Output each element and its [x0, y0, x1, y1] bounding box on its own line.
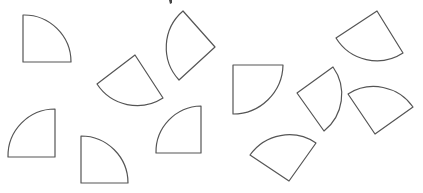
quarter-circle-sector-8 — [250, 135, 316, 181]
quarter-circle-sector-7 — [348, 87, 413, 134]
stray-mark — [169, 0, 172, 4]
quarter-circle-sector-2 — [97, 55, 163, 106]
quarter-circle-sector-1 — [23, 15, 71, 62]
diagram-canvas — [0, 0, 423, 193]
quarter-circle-sector-9 — [8, 109, 55, 157]
quarter-circle-sector-11 — [156, 106, 201, 153]
quarter-circle-sector-5 — [297, 67, 342, 131]
sectors-diagram — [0, 0, 423, 193]
quarter-circle-sector-4 — [233, 65, 283, 114]
quarter-circle-sector-10 — [81, 136, 128, 183]
sectors-group — [8, 11, 413, 183]
quarter-circle-sector-3 — [166, 11, 215, 80]
quarter-circle-sector-6 — [336, 11, 403, 61]
